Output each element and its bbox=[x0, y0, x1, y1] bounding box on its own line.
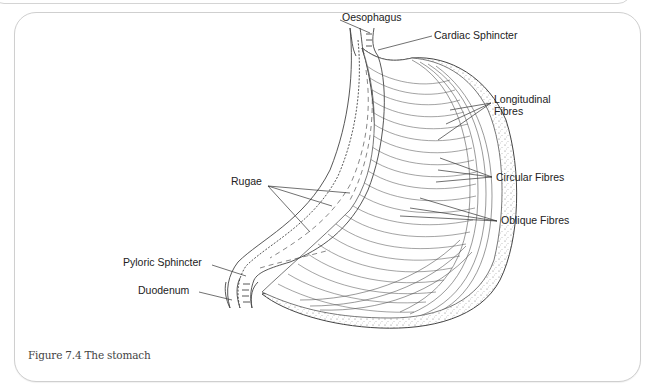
label-oesophagus: Oesophagus bbox=[342, 11, 402, 24]
label-oblique-fibres: Oblique Fibres bbox=[501, 214, 569, 227]
stomach-diagram bbox=[0, 0, 652, 390]
label-rugae: Rugae bbox=[231, 175, 262, 188]
label-cardiac-sphincter: Cardiac Sphincter bbox=[434, 29, 517, 42]
label-duodenum: Duodenum bbox=[138, 284, 189, 297]
label-longitudinal-fibres-line2: Fibres bbox=[494, 105, 523, 118]
figure-caption: Figure 7.4 The stomach bbox=[28, 349, 150, 361]
label-circular-fibres: Circular Fibres bbox=[496, 171, 564, 184]
label-pyloric-sphincter: Pyloric Sphincter bbox=[123, 256, 202, 269]
